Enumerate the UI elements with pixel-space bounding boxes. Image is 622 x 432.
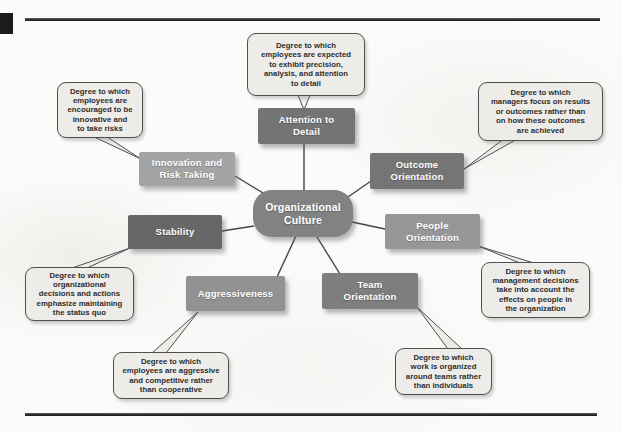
callout-tail-team: [417, 307, 462, 349]
callout-stability-text: Degree to which organizational decisions…: [37, 271, 123, 318]
callout-outcome-orientation: Degree to which managers focus on result…: [478, 82, 603, 141]
node-people-orientation: People Orientation: [385, 214, 480, 249]
node-innovation-and-risk-taking-label: Innovation and Risk Taking: [152, 157, 222, 180]
node-attention-to-detail-label: Attention to Detail: [279, 114, 335, 137]
node-outcome-orientation-label: Outcome Orientation: [391, 159, 444, 182]
callout-innovation-and-risk-taking: Degree to which employees are encouraged…: [57, 82, 143, 138]
callout-team-orientation: Degree to which work is organized around…: [395, 348, 492, 395]
callout-outcome-orientation-text: Degree to which managers focus on result…: [491, 88, 590, 135]
connector-line-aggressiveness: [277, 236, 296, 277]
node-innovation-and-risk-taking: Innovation and Risk Taking: [139, 152, 235, 186]
node-stability: Stability: [128, 215, 222, 249]
callout-stability: Degree to which organizational decisions…: [25, 267, 134, 321]
callout-tail-outcome: [464, 138, 519, 169]
node-team-orientation-label: Team Orientation: [344, 279, 397, 302]
callout-people-orientation-text: Degree to which management decisions tak…: [492, 267, 578, 314]
callout-tail-people: [478, 246, 534, 263]
callout-tail-stability: [72, 248, 130, 268]
node-organizational-culture: Organizational Culture: [253, 190, 353, 237]
callout-attention-to-detail-text: Degree to which employees are expected t…: [261, 41, 351, 88]
node-stability-label: Stability: [156, 226, 195, 238]
node-attention-to-detail: Attention to Detail: [258, 108, 355, 144]
connector-line-people: [352, 222, 385, 229]
node-people-orientation-label: People Orientation: [406, 220, 459, 243]
node-outcome-orientation: Outcome Orientation: [370, 153, 464, 189]
organizational-culture-figure: Organizational Culture Innovation and Ri…: [0, 0, 622, 432]
connector-line-stability: [222, 226, 254, 231]
node-aggressiveness: Aggressiveness: [186, 276, 285, 311]
node-organizational-culture-label: Organizational Culture: [265, 201, 341, 227]
node-team-orientation: Team Orientation: [322, 273, 418, 309]
callout-team-orientation-text: Degree to which work is organized around…: [406, 353, 481, 390]
callout-aggressiveness-text: Degree to which employees are aggressive…: [122, 357, 219, 394]
callout-tail-innovation: [90, 135, 141, 159]
callout-aggressiveness: Degree to which employees are aggressive…: [113, 352, 229, 399]
connector-line-team: [317, 237, 340, 274]
callout-people-orientation: Degree to which management decisions tak…: [481, 262, 590, 318]
connector-line-outcome: [348, 181, 371, 197]
node-aggressiveness-label: Aggressiveness: [198, 288, 274, 300]
callout-tail-aggressiveness: [152, 312, 198, 353]
callout-innovation-and-risk-taking-text: Degree to which employees are encouraged…: [68, 87, 133, 134]
callout-attention-to-detail: Degree to which employees are expected t…: [247, 33, 365, 96]
